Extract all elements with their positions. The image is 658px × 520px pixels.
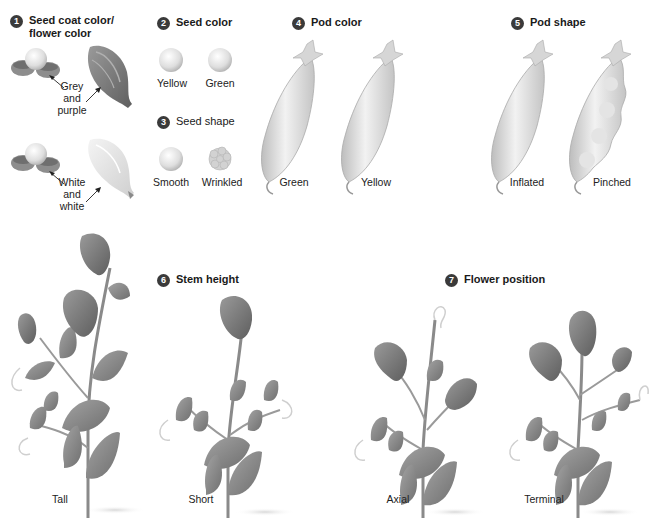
label-line: white [55, 200, 89, 212]
label-line: and [55, 188, 89, 200]
number-badge: 7 [445, 274, 458, 287]
number-badge: 4 [292, 17, 305, 30]
pod-color-yellow-label: Yellow [354, 176, 398, 188]
seed-color-green-label: Green [200, 77, 240, 89]
character-5-heading: 5Pod shape [511, 16, 586, 30]
character-2-heading: 2Seed color [157, 16, 232, 30]
seed-shape-illustration [158, 146, 258, 176]
character-1-heading: 1Seed coat color/ [10, 14, 114, 28]
label-line: Grey [55, 80, 89, 92]
seed-shape-wrinkled-label: Wrinkled [199, 176, 245, 188]
heading-text: Pod color [311, 16, 362, 28]
axial-plant-illustration [345, 300, 495, 520]
character-4-heading: 4Pod color [292, 16, 362, 30]
character-6-heading: 6Stem height [157, 273, 239, 287]
seed-color-illustration [158, 47, 258, 77]
pod-inflated [492, 40, 553, 194]
number-badge: 3 [157, 116, 170, 129]
character-1-heading-line2: flower color [29, 27, 91, 40]
heading-text: Seed coat color/ [29, 14, 114, 26]
character-7-heading: 7Flower position [445, 273, 545, 287]
stem-height-tall-label: Tall [48, 493, 72, 505]
short-plant-illustration [150, 290, 300, 520]
pod-yellow [342, 40, 403, 194]
character-3-heading: 3Seed shape [157, 115, 235, 129]
heading-text: Stem height [176, 273, 239, 285]
pod-pinched [570, 40, 631, 194]
flower-position-terminal-label: Terminal [523, 493, 565, 505]
heading-text: Seed shape [176, 115, 235, 127]
pod-shape-inflated-label: Inflated [505, 176, 549, 188]
number-badge: 5 [511, 17, 524, 30]
pod-green [262, 40, 323, 194]
number-badge: 2 [157, 17, 170, 30]
label-line: purple [55, 104, 89, 116]
heading-text: Flower position [464, 273, 545, 285]
pod-shape-illustration [485, 36, 655, 196]
pod-color-green-label: Green [274, 176, 314, 188]
number-badge: 6 [157, 274, 170, 287]
heading-text: Seed color [176, 16, 232, 28]
seed-color-yellow-label: Yellow [152, 77, 192, 89]
flower-position-axial-label: Axial [383, 493, 413, 505]
terminal-plant-illustration [500, 300, 658, 520]
tall-plant-illustration [0, 228, 150, 520]
number-badge: 1 [10, 15, 23, 28]
label-line: White [55, 176, 89, 188]
label-line: and [55, 92, 89, 104]
grey-and-purple-label: Grey and purple [55, 80, 89, 116]
stem-height-short-label: Short [186, 493, 216, 505]
seed-shape-smooth-label: Smooth [149, 176, 193, 188]
pod-shape-pinched-label: Pinched [590, 176, 634, 188]
pod-color-illustration [255, 36, 425, 196]
heading-text: Pod shape [530, 16, 586, 28]
white-and-white-label: White and white [55, 176, 89, 212]
